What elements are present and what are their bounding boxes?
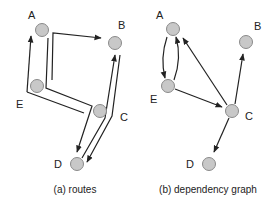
- label-e: E: [150, 93, 157, 105]
- node-d: [203, 158, 216, 171]
- node-c: [94, 105, 107, 118]
- panel-dependency-graph: A B E C D (b) dependency graph: [150, 9, 261, 195]
- label-d: D: [186, 158, 194, 170]
- label-b: B: [118, 19, 125, 31]
- label-c: C: [120, 111, 128, 123]
- node-b: [109, 37, 122, 50]
- label-e: E: [16, 98, 23, 110]
- edge-e-to-c: [175, 89, 222, 107]
- edge-e-to-a: [174, 37, 179, 80]
- route-e-across: [27, 92, 84, 113]
- label-c: C: [245, 110, 253, 122]
- node-e: [31, 80, 44, 93]
- edge-c-to-b: [235, 54, 243, 104]
- label-d: D: [54, 158, 62, 170]
- node-c: [226, 105, 239, 118]
- caption-routes: (a) routes: [54, 184, 97, 195]
- label-a: A: [28, 9, 36, 21]
- panel-routes: A B E C D (a) routes: [16, 9, 128, 195]
- caption-dependency-graph: (b) dependency graph: [159, 184, 257, 195]
- node-a: [167, 23, 180, 36]
- edge-c-to-d: [214, 118, 229, 152]
- edge-a-to-e: [163, 37, 167, 78]
- route-e-to-a: [27, 36, 31, 92]
- node-a: [36, 24, 49, 37]
- node-d: [71, 158, 84, 171]
- node-b: [240, 36, 253, 49]
- route-a-to-b: [52, 33, 101, 80]
- label-a: A: [156, 9, 164, 21]
- figure-canvas: A B E C D (a) routes A B E C D (b) depen…: [0, 0, 273, 202]
- label-b: B: [254, 20, 261, 32]
- node-e: [162, 80, 175, 93]
